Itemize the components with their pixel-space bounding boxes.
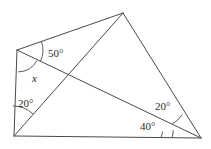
edge-bottom bbox=[14, 136, 201, 138]
edge-left-side bbox=[14, 50, 17, 136]
geometry-figure: 50° x 20° 20° 40° bbox=[0, 0, 211, 149]
angle-label-x: x bbox=[32, 73, 37, 84]
angle-arc-20-right bbox=[172, 115, 182, 125]
angle-label-40: 40° bbox=[140, 121, 155, 132]
angle-label-20-left: 20° bbox=[18, 98, 33, 109]
angle-arc-40 bbox=[161, 131, 163, 137]
angle-arc-x bbox=[18, 61, 37, 72]
angle-arc-40-inner bbox=[172, 130, 173, 138]
angle-label-50: 50° bbox=[48, 48, 63, 59]
diagonal-bottom-left-to-top bbox=[14, 13, 123, 136]
angle-arc-50 bbox=[40, 42, 43, 62]
angle-label-20-right: 20° bbox=[155, 101, 170, 112]
